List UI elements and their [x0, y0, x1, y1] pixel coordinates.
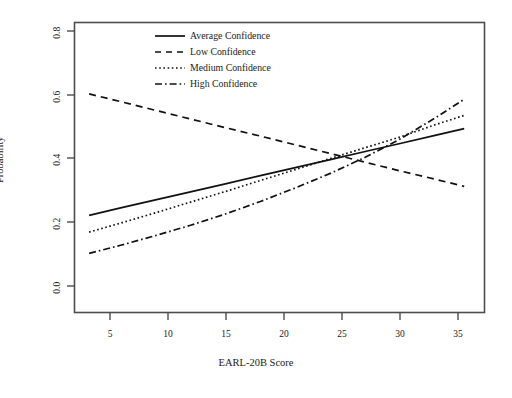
- legend-label-low-confidence: Low Confidence: [190, 47, 256, 57]
- y-tick-label-4: 0.6: [53, 90, 63, 104]
- y-axis-title-text: Probability: [0, 136, 5, 210]
- x-tick-label-5: 25: [337, 330, 347, 340]
- x-axis-tick-marks: [110, 313, 458, 320]
- legend-line-samples: [155, 36, 185, 84]
- y-axis-tick-marks: [67, 31, 74, 286]
- figure-chart-container: 5 10 15 20 25 30 35 0.0 0.2 0.4 0.6 0.8 …: [0, 0, 512, 398]
- plot-frame: [75, 23, 485, 313]
- x-axis-title: EARL-20B Score: [0, 358, 512, 369]
- x-tick-label-4: 20: [279, 330, 289, 340]
- y-tick-label-2: 0.2: [53, 217, 63, 231]
- x-tick-label-3: 15: [221, 330, 231, 340]
- data-series-group: [89, 94, 464, 254]
- legend-label-high-confidence: High Confidence: [190, 79, 257, 89]
- y-tick-label-3: 0.4: [53, 153, 63, 167]
- legend-label-medium-confidence: Medium Confidence: [190, 63, 271, 73]
- y-tick-label-5: 0.8: [53, 26, 63, 40]
- legend-label-average-confidence: Average Confidence: [190, 31, 270, 41]
- plot-canvas: [0, 0, 512, 398]
- x-tick-label-7: 35: [453, 330, 463, 340]
- series-line-medium-confidence: [89, 115, 464, 232]
- x-tick-label-1: 5: [108, 330, 113, 340]
- x-tick-label-2: 10: [163, 330, 173, 340]
- series-line-high-confidence: [89, 99, 464, 253]
- y-tick-label-1: 0.0: [53, 281, 63, 295]
- x-tick-label-6: 30: [395, 330, 405, 340]
